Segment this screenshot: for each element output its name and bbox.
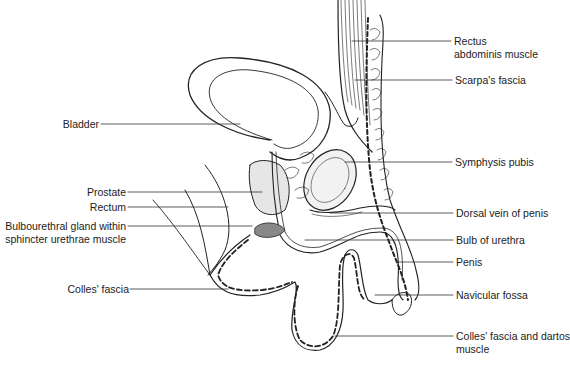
glans-penis [392,293,412,316]
label-colles-fascia: Colles' fascia [67,283,129,295]
symphysis-pubis [293,140,367,219]
label-navicular-fossa: Navicular fossa [456,289,528,301]
label-bulbourethral-line1: Bulbourethral gland within [5,220,126,232]
label-colles-dartos-line2: muscle [456,343,489,355]
label-bulbourethral-line2: sphincter urethrae muscle [5,233,126,245]
label-rectum: Rectum [90,201,126,213]
prostate [249,160,289,214]
colles-fascia-contour [210,235,392,350]
fatty-tissue [370,28,393,200]
label-prostate: Prostate [87,186,126,198]
label-bladder: Bladder [63,118,99,130]
bladder-outer-wall [188,58,330,160]
label-rectus-line2: abdominis muscle [454,48,538,60]
label-scarpas-fascia: Scarpa's fascia [455,74,526,86]
label-rectus-line1: Rectus [454,35,487,47]
rectum-wall [185,190,210,275]
label-colles-dartos-line1: Colles' fascia and dartos [456,330,570,342]
label-bulb-of-urethra: Bulb of urethra [456,234,525,246]
label-symphysis-pubis: Symphysis pubis [455,156,534,168]
bladder-inner-wall [209,70,318,149]
label-penis: Penis [456,256,482,268]
label-dorsal-vein: Dorsal vein of penis [456,207,548,219]
